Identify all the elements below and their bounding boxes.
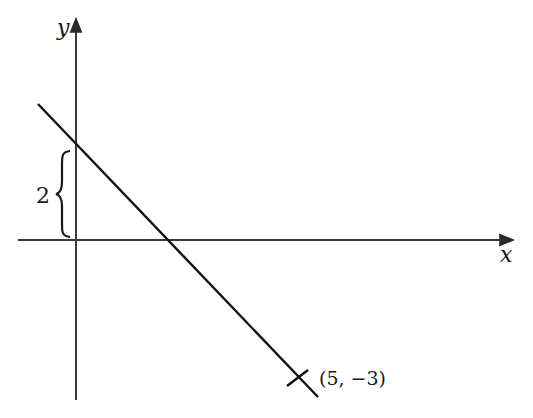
y-axis-label: y: [56, 15, 70, 40]
brace-label: 2: [36, 183, 50, 208]
point-label: (5, −3): [319, 367, 386, 389]
graph-line: [38, 104, 318, 397]
diagram-canvas: y x 2 (5, −3): [0, 0, 533, 418]
brace-icon: [56, 151, 70, 237]
x-axis-label: x: [500, 242, 513, 267]
